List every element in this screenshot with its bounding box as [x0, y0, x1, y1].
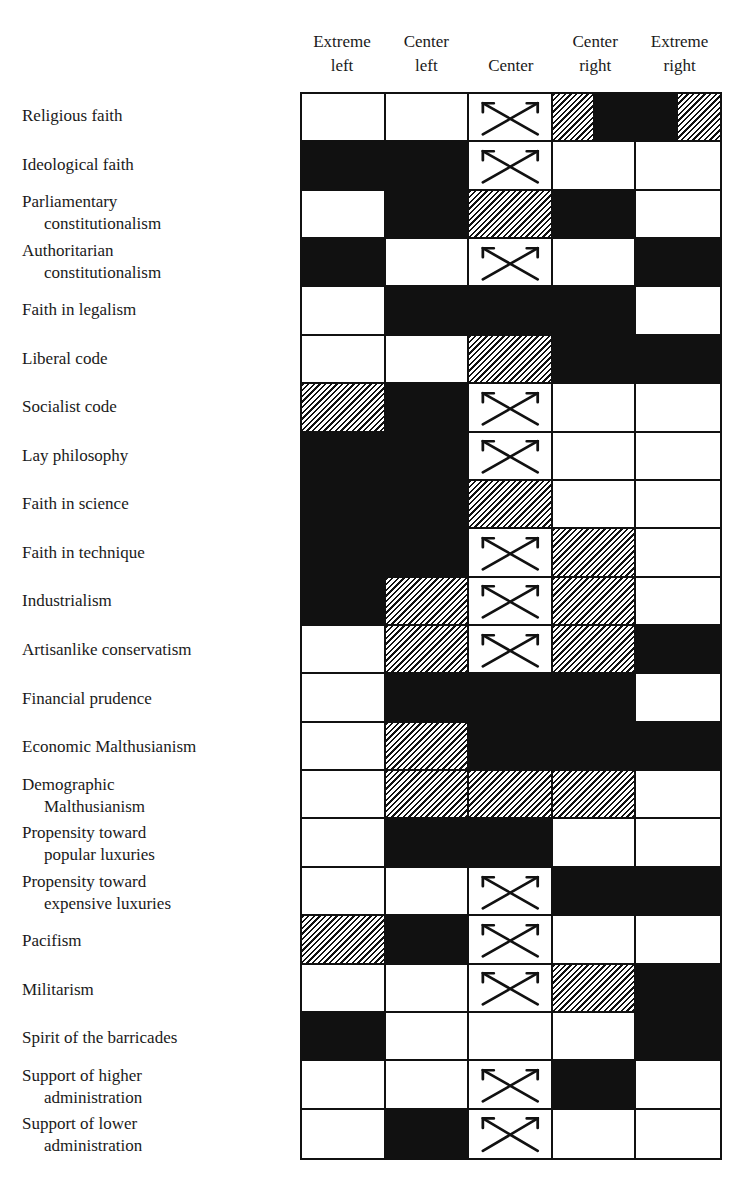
- cell-extreme-right: [636, 191, 720, 239]
- cell-extreme-left: [302, 868, 386, 916]
- cell-extreme-right: [636, 142, 720, 190]
- crossed-arrows-icon: [476, 920, 545, 959]
- cell-center-right: [553, 142, 637, 190]
- row-label: Religious faith: [22, 105, 292, 127]
- cell-center: [469, 965, 553, 1013]
- row-label: Financial prudence: [22, 688, 292, 710]
- row-label-line1: Support of lower: [22, 1114, 137, 1133]
- cell-center-right: [553, 626, 637, 674]
- cell-center-left: [386, 481, 470, 529]
- column-header-extreme-left: Extremeleft: [300, 30, 384, 78]
- column-header-line2: right: [638, 54, 722, 78]
- row-label-line1: Parliamentary: [22, 192, 117, 211]
- cell-extreme-right: [636, 819, 720, 867]
- crossed-arrows-icon: [476, 968, 545, 1007]
- column-header-center-right: Centerright: [553, 30, 637, 78]
- cell-extreme-left: [302, 723, 386, 771]
- cell-center: [469, 529, 553, 577]
- cell-extreme-right: [636, 723, 720, 771]
- cell-center: [469, 94, 553, 142]
- cell-center-right: [553, 1110, 637, 1158]
- cell-extreme-left: [302, 819, 386, 867]
- cell-center: [469, 433, 553, 481]
- cell-extreme-left: [302, 94, 386, 142]
- cell-center-left: [386, 578, 470, 626]
- row-label: Lay philosophy: [22, 445, 292, 467]
- column-header-center: Center: [469, 30, 553, 78]
- cell-extreme-right: [636, 1013, 720, 1061]
- column-header-center-left: Centerleft: [384, 30, 468, 78]
- row-label: Industrialism: [22, 590, 292, 612]
- column-header-extreme-right: Extremeright: [638, 30, 722, 78]
- row-label-line1: Industrialism: [22, 591, 112, 610]
- cell-center-left: [386, 1110, 470, 1158]
- row-label-line2: Malthusianism: [22, 796, 292, 818]
- cell-extreme-left: [302, 771, 386, 819]
- row-label-line1: Liberal code: [22, 349, 107, 368]
- cell-extreme-right: [636, 384, 720, 432]
- row-label-line1: Propensity toward: [22, 823, 146, 842]
- row-label-line1: Financial prudence: [22, 689, 152, 708]
- cell-center-left: [386, 723, 470, 771]
- cell-center-left: [386, 94, 470, 142]
- cell-center-left: [386, 916, 470, 964]
- cell-extreme-right: [636, 626, 720, 674]
- row-label-line1: Authoritarian: [22, 241, 114, 260]
- cell-center-right: [553, 578, 637, 626]
- row-label: Ideological faith: [22, 154, 292, 176]
- row-label-line2: administration: [22, 1135, 292, 1157]
- cell-center-right: [553, 94, 637, 142]
- column-header-line2: right: [553, 54, 637, 78]
- cell-center-right: [553, 723, 637, 771]
- cell-center: [469, 384, 553, 432]
- cell-extreme-right: [636, 771, 720, 819]
- cell-extreme-left: [302, 674, 386, 722]
- row-label: Parliamentaryconstitutionalism: [22, 191, 292, 235]
- cell-center-right: [553, 287, 637, 335]
- crossed-arrows-icon: [476, 533, 545, 572]
- row-label-line1: Ideological faith: [22, 155, 134, 174]
- cell-center: [469, 336, 553, 384]
- cell-center: [469, 1061, 553, 1109]
- cell-center-left: [386, 1013, 470, 1061]
- row-label: Support of loweradministration: [22, 1113, 292, 1157]
- cell-extreme-right: [636, 433, 720, 481]
- cell-extreme-right: [636, 965, 720, 1013]
- cell-center-left: [386, 239, 470, 287]
- cell-extreme-right: [636, 287, 720, 335]
- row-label: Propensity towardpopular luxuries: [22, 822, 292, 866]
- cell-center-right: [553, 336, 637, 384]
- cell-center-left: [386, 433, 470, 481]
- cell-center-left: [386, 191, 470, 239]
- cell-center-left: [386, 384, 470, 432]
- cell-center-right: [553, 819, 637, 867]
- row-label-line1: Faith in technique: [22, 543, 145, 562]
- row-label: Faith in legalism: [22, 299, 292, 321]
- row-label-line1: Artisanlike conservatism: [22, 640, 192, 659]
- column-header-line1: Extreme: [638, 30, 722, 54]
- crossed-arrows-icon: [476, 146, 545, 185]
- cell-center-left: [386, 819, 470, 867]
- cell-center-left: [386, 868, 470, 916]
- crossed-arrows-icon: [476, 630, 545, 669]
- cell-center: [469, 916, 553, 964]
- cell-center: [469, 723, 553, 771]
- cell-center: [469, 819, 553, 867]
- cell-extreme-right: [636, 529, 720, 577]
- cell-center: [469, 191, 553, 239]
- row-label-line1: Faith in legalism: [22, 300, 136, 319]
- row-label: Pacifism: [22, 930, 292, 952]
- row-label-line2: constitutionalism: [22, 262, 292, 284]
- cell-extreme-left: [302, 142, 386, 190]
- crossed-arrows-icon: [476, 388, 545, 427]
- crossed-arrows-icon: [476, 1113, 545, 1154]
- row-label-line1: Militarism: [22, 980, 94, 999]
- column-header-line2: Center: [469, 54, 553, 78]
- cell-extreme-left: [302, 1061, 386, 1109]
- cell-center-right: [553, 1061, 637, 1109]
- row-label: Authoritarianconstitutionalism: [22, 240, 292, 284]
- column-header-line1: Center: [384, 30, 468, 54]
- column-header-line2: left: [300, 54, 384, 78]
- cell-extreme-left: [302, 1110, 386, 1158]
- crossed-arrows-icon: [476, 1065, 545, 1104]
